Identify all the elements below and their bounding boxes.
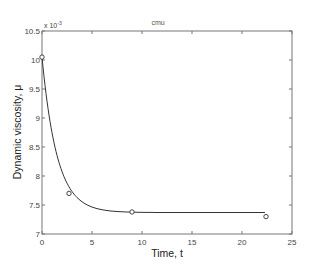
chart-figure: 0510152025 77.588.599.51010.5 cmu x 10-3… (0, 0, 310, 269)
y-tick-label: 10 (31, 56, 40, 65)
y-tick-label: 9 (36, 114, 41, 123)
y-tick-label: 7.5 (29, 201, 41, 210)
x-tick-label: 0 (40, 238, 45, 247)
plot-area (42, 31, 292, 234)
x-tick-label: 5 (90, 238, 95, 247)
x-axis-label: Time, t (151, 247, 183, 259)
y-tick-labels: 77.588.599.51010.5 (24, 27, 40, 239)
x-tick-label: 10 (138, 238, 147, 247)
data-point-marker (264, 214, 268, 218)
y-tick-label: 8.5 (29, 143, 41, 152)
y-tick-label: 10.5 (24, 27, 40, 36)
x-tick-label: 20 (238, 238, 247, 247)
chart-title: cmu (151, 19, 164, 26)
y-tick-label: 7 (36, 230, 41, 239)
x-tick-label: 15 (188, 238, 197, 247)
data-point-marker (130, 210, 134, 214)
x-tick-labels: 0510152025 (40, 238, 297, 247)
y-axis-label: Dynamic viscosity, μ (11, 85, 23, 180)
x-tick-label: 25 (288, 238, 297, 247)
y-multiplier: x 10-3 (44, 20, 62, 29)
y-tick-label: 8 (36, 172, 41, 181)
y-tick-label: 9.5 (29, 85, 41, 94)
data-point-marker (40, 55, 44, 59)
data-point-marker (67, 191, 71, 195)
